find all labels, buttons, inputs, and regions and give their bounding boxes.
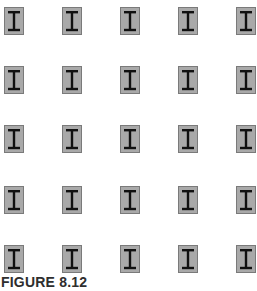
i-beam-column-icon (237, 246, 255, 272)
column-r4-c3 (120, 186, 140, 214)
column-r3-c1 (4, 125, 24, 153)
i-beam-column-icon (237, 126, 255, 152)
column-grid (0, 0, 257, 275)
i-beam-column-icon (179, 246, 197, 272)
i-beam-column-icon (63, 187, 81, 213)
i-beam-column-icon (237, 8, 255, 34)
i-beam-column-icon (5, 187, 23, 213)
column-r3-c3 (120, 125, 140, 153)
column-r2-c1 (4, 66, 24, 94)
column-r5-c3 (120, 245, 140, 273)
i-beam-column-icon (63, 67, 81, 93)
column-r1-c3 (120, 7, 140, 35)
column-r4-c4 (178, 186, 198, 214)
i-beam-column-icon (5, 8, 23, 34)
i-beam-column-icon (121, 8, 139, 34)
i-beam-column-icon (5, 126, 23, 152)
column-r4-c2 (62, 186, 82, 214)
column-r1-c5 (236, 7, 256, 35)
i-beam-column-icon (179, 67, 197, 93)
column-r2-c3 (120, 66, 140, 94)
i-beam-column-icon (5, 246, 23, 272)
i-beam-column-icon (179, 8, 197, 34)
i-beam-column-icon (5, 67, 23, 93)
i-beam-column-icon (179, 126, 197, 152)
column-r2-c4 (178, 66, 198, 94)
i-beam-column-icon (121, 67, 139, 93)
column-r5-c4 (178, 245, 198, 273)
i-beam-column-icon (121, 246, 139, 272)
i-beam-column-icon (63, 8, 81, 34)
i-beam-column-icon (237, 187, 255, 213)
column-r5-c5 (236, 245, 256, 273)
column-r1-c2 (62, 7, 82, 35)
i-beam-column-icon (237, 67, 255, 93)
column-r1-c1 (4, 7, 24, 35)
i-beam-column-icon (63, 246, 81, 272)
i-beam-column-icon (179, 187, 197, 213)
column-r5-c1 (4, 245, 24, 273)
column-r2-c2 (62, 66, 82, 94)
i-beam-column-icon (121, 187, 139, 213)
column-r3-c5 (236, 125, 256, 153)
figure-caption: FIGURE 8.12 (1, 274, 87, 290)
i-beam-column-icon (121, 126, 139, 152)
column-r3-c4 (178, 125, 198, 153)
column-r4-c1 (4, 186, 24, 214)
column-r2-c5 (236, 66, 256, 94)
column-r5-c2 (62, 245, 82, 273)
column-r1-c4 (178, 7, 198, 35)
column-r3-c2 (62, 125, 82, 153)
column-r4-c5 (236, 186, 256, 214)
i-beam-column-icon (63, 126, 81, 152)
